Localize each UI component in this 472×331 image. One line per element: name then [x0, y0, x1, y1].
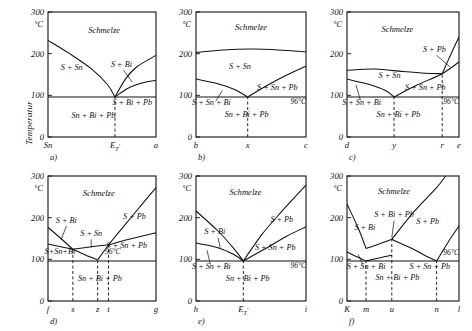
panel-a: 0100200300°CSchmelzeS + SnS + BiS + Bi +…: [30, 7, 158, 162]
y-tick-label-e-300: 300: [178, 171, 193, 181]
x-axis-label-a-1: ET': [109, 140, 121, 152]
leader-f-1: [392, 221, 394, 238]
unit-label-f: °C: [333, 184, 342, 193]
curve-f-pb-solidus-down: [392, 239, 437, 261]
region-label-b-1: S + Sn: [229, 62, 251, 71]
y-tick-label-c-200: 200: [330, 49, 344, 59]
x-axis-label-e-1: ET': [237, 304, 249, 316]
phase-diagram-figure: Temperatur 0100200300°CSchmelzeS + SnS +…: [0, 0, 472, 331]
region-label-f-4: S + Sn + Bi: [347, 262, 387, 271]
y-tick-label-b-300: 300: [178, 7, 193, 17]
x-axis-label-c-0: d: [345, 140, 350, 150]
region-label-b-2: S + Sn + Pb: [257, 83, 298, 92]
region-label-d-2: S + Sn: [80, 229, 102, 238]
x-axis-label-f-3: n: [434, 304, 438, 314]
region-label-c-1: S + Sn: [379, 71, 401, 80]
y-tick-label-d-200: 200: [31, 213, 45, 223]
curve-d-lower-mid: [73, 245, 109, 250]
y-tick-label-e-0: 0: [188, 296, 193, 306]
curve-b-solidus-left: [196, 79, 248, 97]
x-axis-label-f-0: K: [343, 304, 351, 314]
region-label-c-4: S + Sn + Bi: [342, 98, 382, 107]
panel-e: 0100200300°CSchmelzeS + BiS + PbS + Sn +…: [178, 171, 308, 326]
curve-f-mid-solidus: [366, 255, 392, 261]
panel-b: 0100200300°CSchmelzeS + SnS + Sn + PbS +…: [178, 7, 308, 162]
y-tick-label-e-100: 100: [179, 254, 193, 264]
region-label-c-5: Sn + Bi + Pb: [377, 110, 421, 119]
region-label-a-2: S + Bi: [111, 60, 133, 69]
x-axis-label-d-3: t: [107, 304, 110, 314]
y-tick-label-c-300: 300: [329, 7, 344, 17]
y-tick-label-a-200: 200: [31, 49, 45, 59]
x-axis-label-e-0: h: [194, 304, 198, 314]
region-label-e-1: S + Bi: [204, 227, 226, 236]
unit-label-a: °C: [34, 20, 43, 29]
y-tick-label-f-100: 100: [330, 254, 344, 264]
y-tick-label-d-0: 0: [40, 296, 45, 306]
region-label-d-0: Schmelze: [83, 188, 115, 198]
panel-caption-d: d): [50, 316, 57, 326]
region-label-f-6: Sn + Bi + Pb: [376, 273, 420, 282]
region-label-c-2: S + Pb: [423, 45, 446, 54]
y-tick-label-f-200: 200: [330, 213, 344, 223]
panel-caption-b: b): [198, 152, 205, 162]
x-axis-label-b-0: b: [194, 140, 199, 150]
region-label-d-6: Sn + Bi + Pb: [78, 274, 122, 283]
region-label-e-2: S + Pb: [270, 215, 293, 224]
x-axis-label-d-4: g: [154, 304, 159, 314]
x-axis-label-c-1: y: [391, 140, 396, 150]
phase-diagram-svg: 0100200300°CSchmelzeS + SnS + BiS + Bi +…: [0, 0, 472, 331]
region-label-a-1: S + Sn: [61, 63, 83, 72]
x-axis-label-c-2: r: [441, 140, 445, 150]
curve-b-upper-liquidus: [196, 49, 306, 52]
curve-c-solidus-left: [347, 79, 394, 97]
panel-caption-e: e): [198, 316, 205, 326]
panel-f: 0100200300°CSchmelzeS + BiS + Bi + PbS +…: [329, 171, 461, 326]
x-axis-label-f-2: u: [390, 304, 394, 314]
region-label-b-4: Sn + Bi + Pb: [225, 110, 269, 119]
curve-f-bi-liquidus-to-u: [366, 239, 392, 248]
panel-d: 0100200300°CSchmelzeS + BiS + SnS + PbS …: [30, 171, 159, 326]
leader-e-1: [218, 238, 220, 248]
y-tick-label-f-300: 300: [329, 171, 344, 181]
y-tick-label-e-200: 200: [179, 213, 193, 223]
panel-caption-a: a): [50, 152, 57, 162]
region-label-e-5: Sn + Bi + Pb: [226, 274, 270, 283]
x-axis-label-f-4: l: [458, 304, 461, 314]
y-axis-label: Temperatur: [24, 68, 34, 178]
region-label-d-5: S+Sn+Bi: [45, 247, 76, 256]
region-label-f-2: S + Bi + Pb: [374, 210, 414, 219]
y-tick-label-b-100: 100: [179, 90, 193, 100]
region-label-d-1: S + Bi: [56, 216, 78, 225]
unit-label-c: °C: [333, 20, 342, 29]
curve-b-solidus-right: [248, 66, 306, 97]
y-tick-label-b-200: 200: [179, 49, 193, 59]
curve-d-sn-liquidus-down: [73, 249, 98, 259]
y-tick-label-b-0: 0: [188, 132, 193, 142]
unit-label-b: °C: [182, 20, 191, 29]
y-tick-label-c-0: 0: [339, 132, 344, 142]
region-label-a-4: Sn + Bi + Pb: [71, 111, 115, 120]
y-tick-label-f-0: 0: [339, 296, 344, 306]
region-label-f-7: 96°C: [443, 248, 460, 257]
region-label-a-0: Schmelze: [88, 25, 120, 35]
x-axis-label-d-2: z: [95, 304, 100, 314]
region-label-d-7: 96°C: [105, 247, 122, 256]
panel-caption-c: c): [349, 152, 356, 162]
unit-label-d: °C: [34, 184, 43, 193]
region-label-f-3: S + Pb: [416, 217, 439, 226]
region-label-c-3: S + Sn + Pb: [405, 83, 446, 92]
x-axis-label-f-1: m: [363, 304, 369, 314]
region-label-f-1: S + Bi: [354, 223, 376, 232]
unit-label-e: °C: [182, 184, 191, 193]
region-label-c-0: Schmelze: [381, 24, 413, 34]
x-axis-label-d-1: s: [71, 304, 75, 314]
region-label-b-3: S + Sn + Bi: [192, 98, 232, 107]
region-label-e-0: Schmelze: [230, 187, 262, 197]
region-label-e-6: 96°C: [290, 261, 307, 270]
region-label-a-3: S + Bi + Pb: [112, 98, 152, 107]
region-label-e-3: S + Sn + Pb: [255, 243, 296, 252]
region-label-b-0: Schmelze: [235, 22, 267, 32]
region-label-e-4: S + Sn + Bi: [192, 262, 232, 271]
x-axis-label-c-3: e: [457, 140, 461, 150]
